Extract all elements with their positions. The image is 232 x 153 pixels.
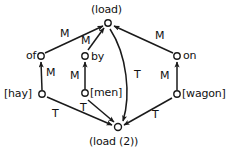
- edge-label-wagon-load2: T: [152, 109, 159, 120]
- edge-hay-of: [41, 62, 42, 90]
- edge-label-by-load: M: [81, 35, 90, 46]
- node-label-load: (load): [91, 4, 122, 15]
- node-load[interactable]: [105, 20, 111, 26]
- edge-men-load2: [88, 100, 114, 122]
- node-load2[interactable]: [115, 124, 122, 131]
- edge-wagon-load2: [124, 98, 172, 125]
- edge-load-load2: [110, 29, 127, 121]
- node-of[interactable]: [38, 53, 44, 59]
- node-label-load2: (load (2)): [89, 136, 138, 147]
- edge-label-hay-of: M: [46, 67, 55, 78]
- node-label-of: of: [26, 50, 36, 61]
- edge-label-of-load: M: [60, 28, 69, 39]
- node-men[interactable]: [82, 90, 88, 96]
- edge-label-men-by: M: [70, 70, 79, 81]
- edge-label-wagon-on: M: [160, 70, 169, 81]
- edge-label-men-load2: T: [80, 102, 87, 113]
- node-label-by: by: [91, 51, 104, 62]
- edge-label-hay-load2: T: [52, 108, 59, 119]
- node-label-men: [men]: [90, 87, 122, 98]
- node-on[interactable]: [174, 53, 180, 59]
- node-hay[interactable]: [39, 91, 45, 97]
- node-label-on: on: [183, 50, 196, 61]
- edge-of-load: [45, 26, 103, 53]
- node-by[interactable]: [82, 53, 88, 59]
- node-label-wagon: [wagon]: [182, 88, 226, 99]
- node-label-hay: [hay]: [4, 88, 32, 99]
- dependency-graph-diagram: (load) of by on [hay] [men] [wagon] (loa…: [0, 0, 232, 153]
- edge-label-on-load: M: [155, 30, 164, 41]
- node-wagon[interactable]: [174, 91, 180, 97]
- graph-canvas: [0, 0, 232, 153]
- edge-label-load-load2: T: [134, 69, 141, 80]
